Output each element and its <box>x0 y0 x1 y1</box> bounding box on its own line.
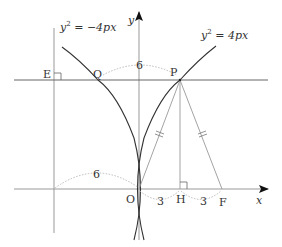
right-angle-mark-h <box>180 182 187 189</box>
diagram-canvas: y2 = −4px y2 = 4px y x E Q P O H F 6 6 3… <box>0 0 282 247</box>
measure-oh: 3 <box>157 195 164 208</box>
right-angle-mark-e <box>54 73 61 80</box>
segment-pf <box>180 80 222 189</box>
label-e: E <box>43 68 51 81</box>
equal-ticks-pf <box>198 131 207 137</box>
left-parabola-equation: y2 = −4px <box>59 20 117 34</box>
label-f: F <box>219 196 227 209</box>
right-parabola-equation: y2 = 4px <box>200 28 249 42</box>
y-axis-label: y <box>127 14 135 27</box>
x-axis-label: x <box>256 194 263 207</box>
measure-qp-top: 6 <box>136 59 143 72</box>
label-o: O <box>126 193 135 206</box>
measure-oe-left: 6 <box>93 168 100 181</box>
label-p: P <box>170 66 178 79</box>
parabola-diagram: y2 = −4px y2 = 4px y x E Q P O H F 6 6 3… <box>0 0 282 247</box>
label-q: Q <box>93 68 102 81</box>
point-p-dot <box>179 79 181 81</box>
measure-hf: 3 <box>200 195 207 208</box>
label-h: H <box>176 193 186 206</box>
